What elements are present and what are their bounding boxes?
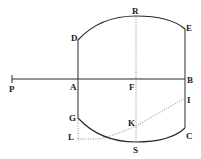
label-a: A (70, 83, 77, 92)
label-b: B (187, 76, 193, 85)
label-r: R (132, 7, 139, 16)
curve-dre (78, 16, 185, 40)
label-g: G (69, 114, 76, 123)
label-e: E (186, 24, 192, 33)
diagram-canvas: P A F B D R E G K I L S C (0, 0, 201, 159)
label-f: F (129, 83, 135, 92)
label-p: P (9, 85, 15, 94)
geometry-figure (0, 0, 201, 159)
label-k: K (128, 119, 135, 128)
label-c: C (186, 132, 193, 141)
label-s: S (133, 146, 138, 155)
label-d: D (71, 34, 78, 43)
label-i: I (187, 96, 191, 105)
label-l: L (68, 133, 74, 142)
